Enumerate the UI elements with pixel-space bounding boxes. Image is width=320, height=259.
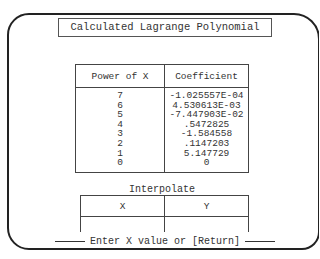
power-column: 7 6 5 4 3 2 1 0 [76, 88, 165, 173]
divider [55, 241, 85, 242]
coefficient-cell: 0 [165, 158, 248, 168]
prompt-text: Enter X value or [Return] [90, 236, 240, 247]
column-header-coefficient: Coefficient [165, 65, 249, 88]
divider [245, 241, 275, 242]
page-title: Calculated Lagrange Polynomial [58, 18, 272, 37]
interpolate-heading: Interpolate [75, 184, 249, 195]
power-cell: 0 [76, 158, 164, 168]
coefficient-table: Power of X Coefficient 7 6 5 4 3 2 1 0 -… [75, 64, 249, 173]
column-header-power: Power of X [76, 65, 165, 88]
column-header-x: X [81, 196, 165, 217]
coefficient-column: -1.025557E-04 4.530613E-03 -7.447903E-02… [165, 88, 249, 173]
status-prompt: Enter X value or [Return] [55, 236, 275, 247]
column-header-y: Y [165, 196, 249, 217]
